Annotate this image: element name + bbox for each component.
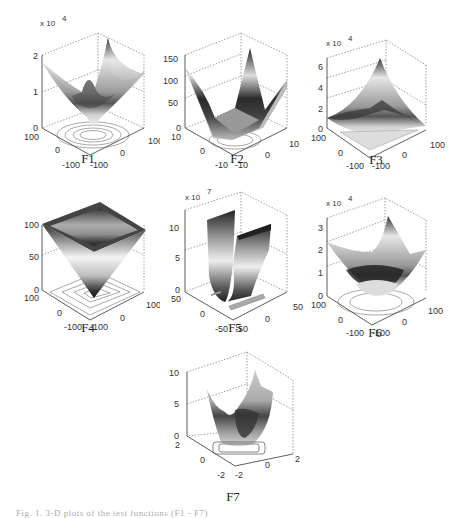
z-tick: 10 — [169, 368, 179, 378]
y-tick: 0 — [338, 148, 343, 158]
z-multiplier: x 10 — [326, 39, 342, 48]
z-tick: 2 — [33, 51, 38, 61]
z-tick: 5 — [175, 253, 180, 263]
y-tick: 100 — [311, 300, 326, 310]
y-tick: 0 — [57, 308, 62, 318]
z-tick: 10 — [169, 223, 179, 233]
z-tick: 4 — [318, 83, 323, 93]
surface-plot-f3: x 10 4 6 4 2 0 100 0 -100 -100 0 100 — [300, 10, 460, 170]
x-tick: 0 — [120, 313, 125, 323]
z-tick: 2 — [318, 104, 323, 114]
x-tick: 2 — [295, 454, 300, 464]
y-tick: 100 — [311, 133, 326, 143]
x-tick: 0 — [402, 150, 407, 160]
z-exponent: 4 — [62, 14, 67, 23]
plot-f4: 100 50 0 100 0 -100 -100 0 100 F4 — [10, 180, 160, 350]
z-exponent: 4 — [348, 194, 353, 203]
y-tick: -2 — [217, 470, 225, 480]
surface-plot-f2: 150 100 50 0 10 0 -10 -10 0 10 — [155, 10, 305, 170]
z-tick: 1 — [318, 268, 323, 278]
y-tick: 100 — [24, 132, 39, 142]
panel-label-f6: F6 — [355, 325, 395, 341]
y-tick: 100 — [24, 293, 39, 303]
z-multiplier: x 10 — [40, 19, 56, 28]
x-tick: 10 — [289, 139, 299, 149]
x-tick: -2 — [235, 470, 243, 480]
x-tick: 0 — [402, 317, 407, 327]
panel-label-f5: F5 — [215, 320, 255, 336]
panel-label-f4: F4 — [68, 320, 108, 336]
surface-plot-f5: x 10 7 10 5 0 50 0 -50 -50 0 50 — [155, 180, 305, 340]
x-tick: 0 — [265, 460, 270, 470]
plot-f6: x 10 4 3 2 1 0 100 0 -100 -100 0 100 F6 — [300, 180, 450, 350]
z-tick: 50 — [168, 98, 178, 108]
x-tick: 0 — [265, 314, 270, 324]
z-tick: 1 — [33, 87, 38, 97]
z-tick: 100 — [24, 220, 39, 230]
plot-f7: 10 5 0 2 0 -2 -2 0 2 F7 — [155, 350, 305, 518]
surface-plot-f4: 100 50 0 100 0 -100 -100 0 100 — [10, 180, 160, 340]
panel-label-f3: F3 — [356, 152, 396, 168]
plot-f5: x 10 7 10 5 0 50 0 -50 -50 0 50 F5 — [155, 180, 305, 350]
y-tick: 0 — [200, 146, 205, 156]
y-tick: 0 — [200, 455, 205, 465]
y-tick: 50 — [171, 294, 181, 304]
x-tick: 100 — [428, 306, 443, 316]
z-tick: 6 — [318, 62, 323, 72]
z-multiplier: x 10 — [326, 199, 342, 208]
panel-label-f1: F1 — [68, 151, 108, 167]
plot-f3: x 10 4 6 4 2 0 100 0 -100 -100 0 100 F3 — [300, 10, 450, 180]
z-tick: 50 — [29, 252, 39, 262]
z-exponent: 7 — [207, 187, 212, 196]
y-tick: 2 — [175, 440, 180, 450]
z-tick: 5 — [174, 399, 179, 409]
z-exponent: 4 — [348, 34, 353, 43]
plot-f2: 150 100 50 0 10 0 -10 -10 0 10 F2 — [155, 10, 305, 180]
surface-plot-f7: 10 5 0 2 0 -2 -2 0 2 — [155, 350, 305, 510]
surface-plot-f6: x 10 4 3 2 1 0 100 0 -100 -100 0 100 — [300, 180, 460, 340]
surface-plot-f1: x 10 4 2 1 0 100 0 -100 -100 0 100 — [10, 10, 160, 170]
z-multiplier: x 10 — [185, 193, 201, 202]
y-tick: 0 — [338, 315, 343, 325]
y-tick: 0 — [200, 309, 205, 319]
figure-caption: Fig. 1. 3-D plots of the test functions … — [16, 508, 208, 518]
x-tick: 0 — [120, 148, 125, 158]
z-tick: 100 — [163, 76, 178, 86]
z-tick: 3 — [318, 223, 323, 233]
y-tick: 0 — [55, 145, 60, 155]
z-tick: 150 — [163, 54, 178, 64]
panel-label-f7: F7 — [213, 489, 253, 505]
x-tick: 0 — [265, 150, 270, 160]
panel-label-f2: F2 — [217, 151, 257, 167]
z-tick: 2 — [318, 245, 323, 255]
plot-f1: x 10 4 2 1 0 100 0 -100 -100 0 100 F1 — [10, 10, 160, 180]
y-tick: 10 — [171, 132, 181, 142]
x-tick: 100 — [430, 140, 445, 150]
